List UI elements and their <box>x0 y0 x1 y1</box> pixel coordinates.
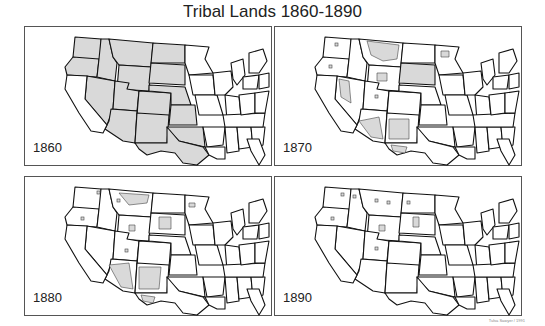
map-panel-1890: 1890 <box>274 176 522 316</box>
us-map-1860 <box>25 27 273 167</box>
us-map-1870 <box>275 27 523 167</box>
year-label: 1870 <box>283 140 312 155</box>
year-label: 1880 <box>33 290 62 305</box>
map-panel-1880: 1880 <box>24 176 272 316</box>
year-label: 1890 <box>283 290 312 305</box>
year-label: 1860 <box>33 140 62 155</box>
map-panel-1860: 1860 <box>24 26 272 166</box>
map-title: Tribal Lands 1860-1890 <box>0 2 545 22</box>
us-map-1890 <box>275 177 523 317</box>
us-map-1880 <box>25 177 273 317</box>
map-panel-1870: 1870 <box>274 26 522 166</box>
credit-text: Tulsa Sawyer / 1991 <box>489 318 525 323</box>
